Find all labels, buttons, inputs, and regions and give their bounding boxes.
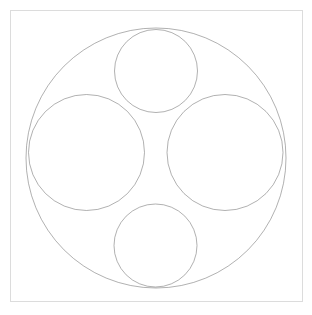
canvas-background (0, 0, 312, 315)
apollonian-gasket-figure (0, 0, 312, 315)
gasket-canvas (0, 0, 312, 315)
